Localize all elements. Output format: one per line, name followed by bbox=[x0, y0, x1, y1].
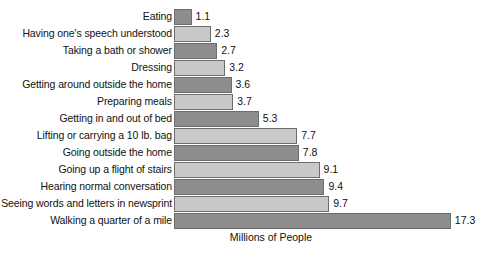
bar-row: Getting around outside the home3.6 bbox=[0, 76, 490, 93]
bar bbox=[174, 162, 320, 178]
bar-row: Hearing normal conversation9.4 bbox=[0, 178, 490, 195]
category-label: Going up a flight of stairs bbox=[0, 161, 174, 178]
bar-value-label: 2.7 bbox=[221, 42, 236, 59]
bar-track: 3.2 bbox=[174, 59, 490, 76]
x-axis-title-label: Millions of People bbox=[230, 231, 312, 243]
category-label: Getting in and out of bed bbox=[0, 110, 174, 127]
category-label: Eating bbox=[0, 8, 174, 25]
bar-row: Walking a quarter of a mile17.3 bbox=[0, 212, 490, 229]
bar-row: Eating1.1 bbox=[0, 8, 490, 25]
bar bbox=[174, 94, 233, 110]
bar bbox=[174, 179, 324, 195]
bar-value-label: 9.1 bbox=[324, 161, 339, 178]
bar-value-label: 7.8 bbox=[303, 144, 318, 161]
bar-track: 9.7 bbox=[174, 195, 490, 212]
bar-row: Lifting or carrying a 10 lb. bag7.7 bbox=[0, 127, 490, 144]
bar-track: 5.3 bbox=[174, 110, 490, 127]
bar bbox=[174, 26, 211, 42]
bar bbox=[174, 213, 451, 229]
bar-row: Seeing words and letters in newsprint9.7 bbox=[0, 195, 490, 212]
bar-track: 7.8 bbox=[174, 144, 490, 161]
bar-row: Having one's speech understood2.3 bbox=[0, 25, 490, 42]
bar-track: 17.3 bbox=[174, 212, 490, 229]
category-label: Preparing meals bbox=[0, 93, 174, 110]
bar-track: 7.7 bbox=[174, 127, 490, 144]
bar-rows-container: Eating1.1Having one's speech understood2… bbox=[0, 8, 490, 229]
bar-track: 3.7 bbox=[174, 93, 490, 110]
category-label: Dressing bbox=[0, 59, 174, 76]
category-label: Going outside the home bbox=[0, 144, 174, 161]
category-label: Hearing normal conversation bbox=[0, 178, 174, 195]
bar bbox=[174, 60, 225, 76]
bar-value-label: 3.7 bbox=[237, 93, 252, 110]
bar-row: Dressing3.2 bbox=[0, 59, 490, 76]
bar bbox=[174, 145, 299, 161]
bar-value-label: 9.7 bbox=[333, 195, 348, 212]
bar-value-label: 1.1 bbox=[196, 8, 211, 25]
bar-track: 2.3 bbox=[174, 25, 490, 42]
bar-track: 3.6 bbox=[174, 76, 490, 93]
bar bbox=[174, 9, 192, 25]
category-label: Getting around outside the home bbox=[0, 76, 174, 93]
bar bbox=[174, 196, 329, 212]
bar-value-label: 3.6 bbox=[236, 76, 251, 93]
bar-value-label: 3.2 bbox=[229, 59, 244, 76]
bar-row: Preparing meals3.7 bbox=[0, 93, 490, 110]
category-label: Taking a bath or shower bbox=[0, 42, 174, 59]
category-label: Seeing words and letters in newsprint bbox=[0, 195, 174, 212]
bar-value-label: 17.3 bbox=[455, 212, 475, 229]
bar-row: Getting in and out of bed5.3 bbox=[0, 110, 490, 127]
category-label: Walking a quarter of a mile bbox=[0, 212, 174, 229]
bar bbox=[174, 77, 232, 93]
bar-value-label: 5.3 bbox=[263, 110, 278, 127]
bar-row: Going up a flight of stairs9.1 bbox=[0, 161, 490, 178]
category-label: Having one's speech understood bbox=[0, 25, 174, 42]
bar-track: 9.1 bbox=[174, 161, 490, 178]
horizontal-bar-chart: Eating1.1Having one's speech understood2… bbox=[0, 0, 490, 261]
bar-row: Taking a bath or shower2.7 bbox=[0, 42, 490, 59]
bar bbox=[174, 43, 217, 59]
category-label: Lifting or carrying a 10 lb. bag bbox=[0, 127, 174, 144]
bar-value-label: 2.3 bbox=[215, 25, 230, 42]
bar-value-label: 7.7 bbox=[301, 127, 316, 144]
bar-value-label: 9.4 bbox=[328, 178, 343, 195]
x-axis-title: Millions of People bbox=[0, 231, 490, 243]
bar-row: Going outside the home7.8 bbox=[0, 144, 490, 161]
bar bbox=[174, 111, 259, 127]
bar bbox=[174, 128, 297, 144]
bar-track: 1.1 bbox=[174, 8, 490, 25]
bar-track: 2.7 bbox=[174, 42, 490, 59]
bar-track: 9.4 bbox=[174, 178, 490, 195]
